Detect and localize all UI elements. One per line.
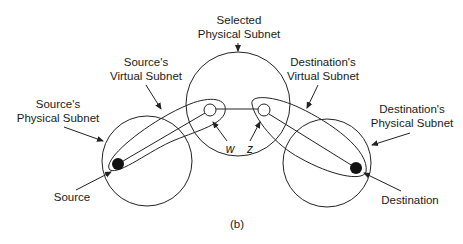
node-z <box>258 104 270 116</box>
network-subnet-diagram: Selected Physical Subnet Source's Virtua… <box>0 0 463 244</box>
destination-label: Destination <box>381 194 439 206</box>
node-w <box>204 104 216 116</box>
selected-physical-subnet-label-line1: Selected <box>217 14 262 26</box>
source-virtual-subnet-label-line2: Virtual Subnet <box>110 70 183 82</box>
source-virtual-subnet-arrow <box>146 85 161 109</box>
node-z-arrow <box>250 122 260 141</box>
source-physical-subnet-label-line2: Physical Subnet <box>17 112 100 124</box>
destination-node <box>350 162 362 174</box>
destination-physical-subnet-label-line2: Physical Subnet <box>371 117 454 129</box>
source-label: Source <box>54 191 90 203</box>
source-physical-subnet-arrow <box>64 127 103 141</box>
destination-virtual-subnet-arrow <box>307 85 318 108</box>
node-w-label: w <box>226 142 236 156</box>
source-physical-subnet-label-line1: Source's <box>36 98 81 110</box>
node-w-arrow <box>213 122 227 141</box>
selected-physical-subnet-circle <box>186 52 290 156</box>
destination-physical-subnet-arrow <box>372 133 410 145</box>
destination-virtual-subnet-label-line1: Destination's <box>290 56 356 68</box>
destination-physical-subnet-label-line1: Destination's <box>379 103 445 115</box>
destination-arrow <box>364 173 401 191</box>
source-virtual-subnet-label-line1: Source's <box>124 56 169 68</box>
node-z-label: z <box>246 142 253 156</box>
source-arrow <box>76 172 111 190</box>
source-node <box>112 158 124 170</box>
selected-physical-subnet-label-line2: Physical Subnet <box>198 28 281 40</box>
figure-caption: (b) <box>230 218 244 230</box>
destination-virtual-subnet-label-line2: Virtual Subnet <box>287 70 360 82</box>
